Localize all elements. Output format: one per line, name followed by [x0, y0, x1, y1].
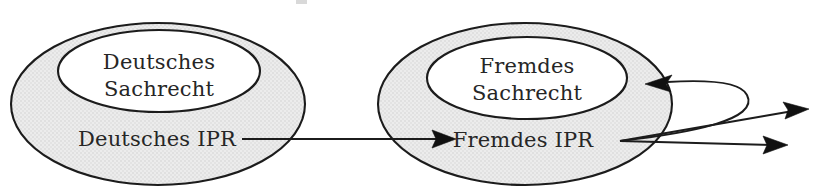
fremdes-sachrecht-label-line1: Fremdes	[480, 54, 575, 78]
fremdes-sachrecht-label-line2: Sachrecht	[472, 81, 583, 105]
set-containment-diagram: Deutsches Sachrecht Deutsches IPR Fremde…	[0, 0, 818, 195]
fremdes-ipr-label: Fremdes IPR	[453, 128, 595, 152]
scan-artifact-speck	[296, 0, 307, 4]
fremdes-ipr-ring-fill	[0, 0, 818, 195]
fremdes-sachrecht-ellipse	[427, 37, 627, 119]
diagram-canvas: Deutsches Sachrecht Deutsches IPR Fremde…	[0, 0, 818, 195]
node-fremdes-ipr: Fremdes Sachrecht Fremdes IPR	[0, 0, 818, 195]
